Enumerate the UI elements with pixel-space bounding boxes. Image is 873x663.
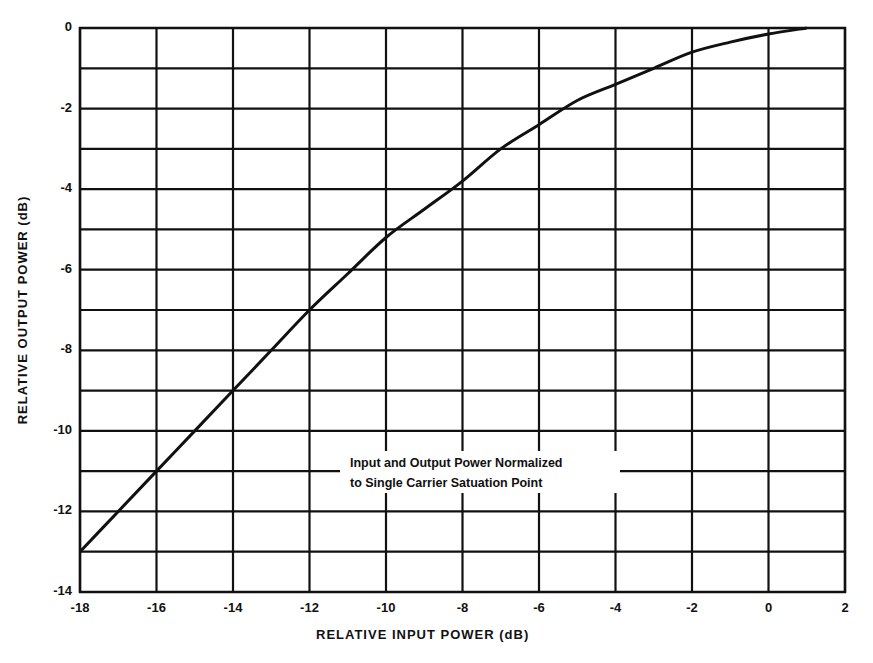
x-tick-label: -4 [596, 600, 636, 615]
x-tick-label: -8 [443, 600, 483, 615]
y-tick-label: -10 [32, 422, 72, 437]
x-tick-label: -14 [213, 600, 253, 615]
x-tick-label: 0 [749, 600, 789, 615]
grid-lines [80, 28, 845, 592]
y-tick-label: 0 [32, 19, 72, 34]
x-tick-label: -16 [137, 600, 177, 615]
y-tick-label: -6 [32, 261, 72, 276]
x-axis-label: RELATIVE INPUT POWER (dB) [316, 627, 529, 642]
annotation-note: Input and Output Power Normalized to Sin… [346, 453, 567, 493]
y-axis-label: RELATIVE OUTPUT POWER (dB) [15, 196, 30, 425]
annotation-line-1: Input and Output Power Normalized [350, 453, 563, 473]
y-tick-label: -14 [32, 583, 72, 598]
x-tick-label: -10 [366, 600, 406, 615]
y-tick-label: -4 [32, 180, 72, 195]
chart-canvas [0, 0, 873, 663]
y-tick-label: -12 [32, 502, 72, 517]
x-tick-label: -6 [519, 600, 559, 615]
y-tick-label: -8 [32, 341, 72, 356]
x-tick-label: 2 [825, 600, 865, 615]
x-tick-label: -18 [60, 600, 100, 615]
annotation-line-2: to Single Carrier Satuation Point [350, 473, 563, 493]
x-tick-label: -12 [290, 600, 330, 615]
x-tick-label: -2 [672, 600, 712, 615]
y-tick-label: -2 [32, 100, 72, 115]
